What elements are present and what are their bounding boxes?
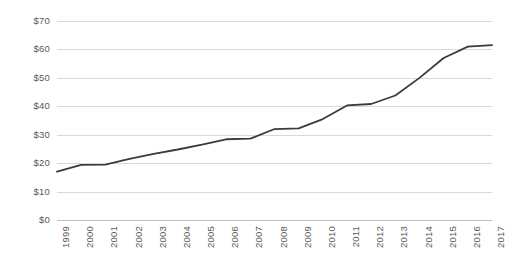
x-tick-label: 2002 bbox=[134, 226, 144, 248]
y-tick-label: $40 bbox=[4, 102, 50, 112]
y-tick-label: $30 bbox=[4, 130, 50, 140]
x-tick-label: 2014 bbox=[424, 226, 434, 248]
x-axis: 1999200020012002200320042005200620072008… bbox=[57, 224, 492, 265]
x-tick-label: 2007 bbox=[254, 226, 264, 248]
gridline-usd-0 bbox=[57, 220, 492, 221]
y-tick-label: $70 bbox=[4, 16, 50, 26]
x-tick-label: 2001 bbox=[109, 226, 119, 248]
x-tick-label: 2010 bbox=[327, 226, 337, 248]
x-tick-label: 2015 bbox=[448, 226, 458, 248]
x-tick-label: 1999 bbox=[61, 226, 71, 248]
x-tick-label: 2016 bbox=[472, 226, 482, 248]
x-tick-label: 2012 bbox=[375, 226, 385, 248]
y-tick-label: $50 bbox=[4, 73, 50, 83]
line-chart: $0$10$20$30$40$50$60$70 1999200020012002… bbox=[0, 0, 515, 265]
x-tick-label: 2006 bbox=[230, 226, 240, 248]
y-tick-label: $0 bbox=[4, 215, 50, 225]
x-tick-label: 2011 bbox=[351, 226, 361, 247]
x-tick-label: 2003 bbox=[158, 226, 168, 248]
series-line bbox=[57, 45, 492, 172]
y-tick-label: $60 bbox=[4, 45, 50, 55]
y-tick-label: $20 bbox=[4, 158, 50, 168]
x-tick-label: 2008 bbox=[279, 226, 289, 248]
x-tick-label: 2000 bbox=[85, 226, 95, 248]
x-tick-label: 2013 bbox=[399, 226, 409, 248]
x-tick-label: 2017 bbox=[496, 226, 506, 248]
y-tick-label: $10 bbox=[4, 187, 50, 197]
series-line-group bbox=[57, 21, 492, 220]
x-tick-label: 2004 bbox=[182, 226, 192, 248]
x-tick-label: 2009 bbox=[303, 226, 313, 248]
plot-area bbox=[57, 21, 492, 220]
x-tick-label: 2005 bbox=[206, 226, 216, 248]
y-axis: $0$10$20$30$40$50$60$70 bbox=[0, 21, 50, 220]
